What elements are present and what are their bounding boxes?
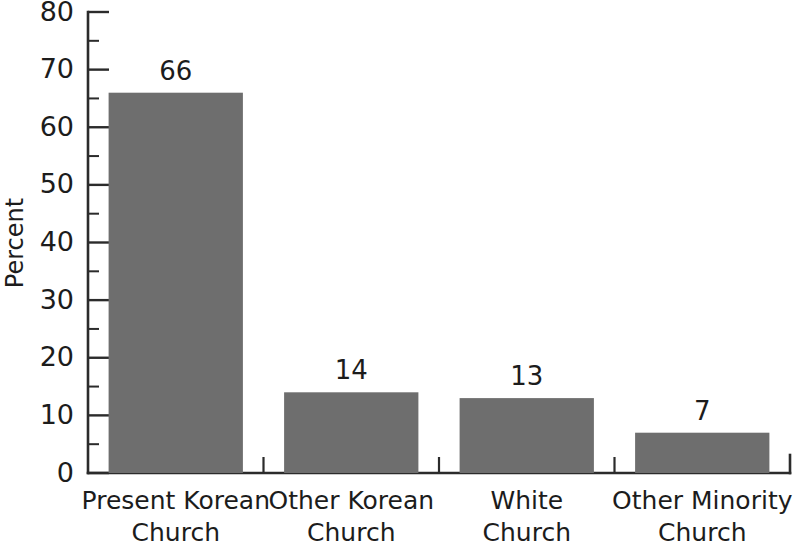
y-tick-label: 70 [40, 53, 74, 84]
y-axis-title: Percent [1, 198, 29, 288]
bar-value-label: 7 [694, 396, 711, 426]
y-tick-label: 30 [40, 284, 74, 315]
y-tick-label: 50 [40, 168, 74, 199]
bar [109, 93, 243, 473]
y-tick-label: 10 [40, 399, 74, 430]
chart-canvas: Percent 01020304050607080 6614137 Presen… [0, 0, 812, 554]
bar-chart: Percent 01020304050607080 6614137 Presen… [0, 0, 812, 554]
y-tick-label: 60 [40, 111, 74, 142]
bar-value-label: 66 [159, 56, 192, 86]
bar-value-label: 13 [510, 361, 543, 391]
y-tick-label: 20 [40, 341, 74, 372]
bar [635, 433, 769, 473]
bar [284, 392, 418, 473]
y-tick-label: 40 [40, 226, 74, 257]
y-tick-label: 0 [57, 457, 74, 488]
bar [460, 398, 594, 473]
y-axis-title-text: Percent [1, 198, 29, 288]
bar-value-label: 14 [335, 355, 368, 385]
y-tick-label: 80 [40, 0, 74, 27]
